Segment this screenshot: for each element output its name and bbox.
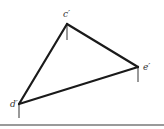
edge-c-e bbox=[67, 24, 138, 67]
vertex-label-d: d′ bbox=[10, 99, 18, 109]
vertex-label-c: c′ bbox=[63, 9, 70, 19]
projection-ticks bbox=[19, 24, 138, 118]
triangle-diagram: c′e′d′ bbox=[0, 0, 164, 129]
triangle-edges bbox=[19, 24, 138, 104]
vertex-label-e: e′ bbox=[143, 62, 150, 72]
vertex-labels: c′e′d′ bbox=[10, 9, 150, 109]
